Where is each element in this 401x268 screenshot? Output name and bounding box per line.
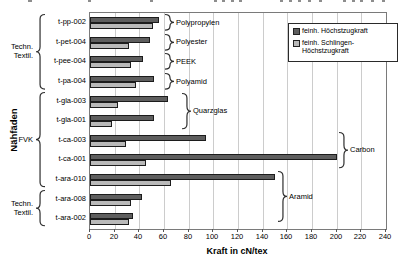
bar-light-t-ara-010	[90, 180, 171, 186]
material-label-carbon: Carbon	[350, 145, 375, 154]
right-group-brace-2	[165, 53, 174, 70]
material-label-polypropylen: Polypropylen	[176, 18, 219, 27]
x-tick-label: 220	[346, 232, 374, 242]
legend-entry-0: feinh. Höchstzugkraft	[292, 27, 394, 35]
bar-light-t-ara-008	[90, 200, 131, 206]
x-axis-title: Kraft in cN/tex	[89, 246, 385, 256]
bar-light-t-ca-003	[90, 141, 126, 147]
right-group-brace-1	[165, 34, 174, 51]
category-label-t-pa-004: t-pa-004	[16, 74, 86, 88]
gridline	[238, 13, 239, 229]
x-tick-label: 120	[223, 232, 251, 242]
caption-fragment	[298, 0, 301, 2]
right-group-brace-3	[165, 73, 174, 90]
category-label-t-pp-002: t-pp-002	[16, 15, 86, 29]
x-tick-label: 40	[124, 232, 152, 242]
gridline	[213, 13, 214, 229]
x-tick-label: 180	[297, 232, 325, 242]
gridline	[263, 13, 264, 229]
caption-fragment	[343, 0, 346, 2]
left-group-brace-0	[36, 14, 45, 90]
bar-light-t-ara-002	[90, 219, 129, 225]
material-label-quarzglas: Quarzglas	[193, 106, 227, 115]
x-tick-label: 60	[149, 232, 177, 242]
category-label-t-ara-010: t-ara-010	[16, 172, 86, 186]
category-label-t-ca-001: t-ca-001	[16, 152, 86, 166]
legend-swatch-0	[293, 28, 300, 35]
cropped-caption-fragments	[0, 0, 401, 4]
x-tick-label: 0	[75, 232, 103, 242]
bar-light-t-pa-004	[90, 82, 136, 88]
category-label-t-gla-003: t-gla-003	[16, 94, 86, 108]
caption-fragment	[150, 0, 153, 2]
legend: feinh. Höchstzugkraftfeinh. Schlingen-Hö…	[288, 23, 398, 62]
material-label-aramid: Aramid	[289, 192, 313, 201]
legend-swatch-1	[293, 40, 300, 47]
material-label-polyamid: Polyamid	[176, 77, 207, 86]
caption-fragment	[28, 0, 32, 2]
right-group-brace-6	[278, 171, 287, 222]
caption-fragment	[222, 0, 225, 2]
right-group-brace-0	[165, 14, 174, 31]
x-tick-label: 160	[272, 232, 300, 242]
left-group-brace-1	[36, 92, 45, 188]
caption-fragment	[214, 0, 217, 2]
caption-fragment	[382, 0, 385, 2]
x-tick-label: 100	[198, 232, 226, 242]
right-group-brace-5	[339, 132, 348, 169]
bar-light-t-pp-002	[90, 23, 153, 29]
right-group-brace-4	[182, 93, 191, 130]
left-group-brace-2	[36, 190, 45, 227]
x-tick-label: 240	[371, 232, 399, 242]
legend-label-1: feinh. Schlingen-Höchstzugkraft	[302, 39, 354, 55]
left-group-label-1: FVK	[0, 135, 33, 144]
bar-chart: Nähfäden Kraft in cN/tex feinh. Höchstzu…	[0, 0, 401, 268]
left-group-label-2: Techn.Textil.	[0, 199, 33, 217]
bar-light-t-pet-004	[90, 43, 129, 49]
material-label-peek: PEEK	[176, 57, 196, 66]
caption-fragment	[308, 0, 311, 2]
left-group-label-0: Techn.Textil.	[0, 42, 33, 60]
caption-fragment	[360, 0, 363, 2]
caption-fragment	[88, 0, 91, 2]
bar-light-t-gla-003	[90, 102, 118, 108]
bar-light-t-gla-001	[90, 121, 112, 127]
bar-light-t-ca-001	[90, 160, 146, 166]
caption-fragment	[319, 0, 322, 2]
legend-label-0: feinh. Höchstzugkraft	[302, 27, 368, 35]
bar-light-t-pee-004	[90, 62, 131, 68]
caption-fragment	[231, 0, 234, 2]
caption-fragment	[280, 0, 283, 2]
caption-fragment	[289, 0, 292, 2]
category-label-t-gla-001: t-gla-001	[16, 113, 86, 127]
material-label-polyester: Polyester	[176, 37, 207, 46]
caption-fragment	[352, 0, 355, 2]
caption-fragment	[239, 0, 242, 2]
legend-entry-1: feinh. Schlingen-Höchstzugkraft	[292, 39, 394, 55]
caption-fragment	[371, 0, 374, 2]
